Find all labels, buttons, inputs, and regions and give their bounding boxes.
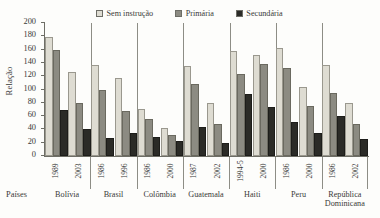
year-tick-label: 1996 (121, 163, 129, 178)
bar (353, 124, 361, 156)
y-axis-tick-label: 20 (28, 138, 36, 146)
year-tick-label: 1986 (98, 163, 106, 178)
year-bar-group (45, 23, 68, 156)
bar (161, 128, 169, 156)
legend-label: Sem instrução (107, 10, 154, 18)
bar (291, 122, 299, 156)
bar (176, 141, 184, 156)
y-axis-tick-label: 80 (28, 98, 36, 106)
bar (214, 124, 222, 156)
year-bar-group (345, 23, 368, 156)
bar (260, 64, 268, 156)
year-tick-cell: 2000 (160, 157, 183, 189)
year-tick-label: 2002 (353, 163, 361, 178)
year-tick-label: 1989 (52, 163, 60, 178)
bar (106, 138, 114, 156)
country-year-tick-group: 19862002 (322, 157, 368, 189)
y-axis-tick-label: 180 (23, 31, 36, 39)
bar (130, 133, 138, 156)
year-tick-label: 2002 (214, 163, 222, 178)
country-year-tick-group: 19862000 (275, 157, 321, 189)
bar (45, 37, 53, 156)
year-tick-cell: 1986 (90, 157, 113, 189)
bar (115, 78, 123, 156)
bar (191, 84, 199, 156)
year-tick-label: 1986 (283, 163, 291, 178)
year-tick-label: 1986 (329, 163, 337, 178)
y-axis-tick-label: 140 (23, 58, 36, 66)
y-axis-tick-label: 200 (23, 18, 36, 26)
bar-groups (45, 23, 368, 156)
year-bar-group (230, 23, 253, 156)
year-tick-cell: 1986 (275, 157, 298, 189)
bar (245, 94, 253, 157)
bar (322, 65, 330, 156)
bar (122, 111, 130, 156)
country-year-tick-group: 19872002 (183, 157, 229, 189)
country-year-tick-group: 19861996 (90, 157, 136, 189)
bar (237, 74, 245, 156)
year-tick-label: 1986 (144, 163, 152, 178)
bar (83, 129, 91, 156)
year-bar-group (183, 23, 206, 156)
country-group (183, 23, 229, 156)
bar (184, 66, 192, 156)
bar (345, 103, 353, 156)
year-bar-group (207, 23, 230, 156)
country-group (322, 23, 368, 156)
country-label-line2: Dominicana (325, 199, 365, 208)
bar (91, 65, 99, 156)
year-bar-group (276, 23, 299, 156)
year-tick-cell: 2003 (67, 157, 90, 189)
year-tick-cell: 2000 (252, 157, 275, 189)
legend-item: Sem instrução (96, 10, 153, 18)
y-axis-title: Relação (4, 51, 14, 111)
bar (307, 106, 315, 156)
year-tick-label: 2003 (75, 163, 83, 178)
y-axis-tick-label: 100 (23, 84, 36, 92)
y-axis-tick-label: 120 (23, 71, 36, 79)
country-group (137, 23, 183, 156)
bar (76, 103, 84, 156)
bar (60, 110, 68, 156)
year-bar-group (322, 23, 345, 156)
x-axis-title: Países (6, 190, 27, 199)
bar (283, 68, 291, 156)
country-year-tick-group: 19862000 (137, 157, 183, 189)
bar (230, 51, 238, 156)
chart-figure: Sem instruçãoPrimáriaSecundária Relação … (0, 0, 380, 218)
bar (99, 90, 107, 157)
year-tick-labels: 198920031986199619862000198720021994-520… (44, 157, 368, 189)
bar (337, 116, 345, 156)
country-labels: BolíviaBrasilColômbiaGuatemalaHaitiPeruR… (44, 189, 368, 217)
bar (276, 48, 284, 156)
country-group (91, 23, 137, 156)
country-group (230, 23, 276, 156)
legend-item: Primária (175, 10, 214, 18)
year-tick-label: 1994-5 (237, 160, 245, 182)
year-tick-cell: 2002 (345, 157, 368, 189)
legend-swatch-icon (96, 10, 103, 17)
y-axis-tick-label: 0 (32, 151, 36, 159)
bar (68, 72, 76, 156)
country-label: Brasil (90, 189, 136, 217)
year-tick-cell: 2000 (299, 157, 322, 189)
year-bar-group (114, 23, 137, 156)
country-group (45, 23, 91, 156)
legend-swatch-icon (175, 10, 182, 17)
y-axis-tick-label: 160 (23, 44, 36, 52)
bar (207, 103, 215, 156)
year-bar-group (299, 23, 322, 156)
year-tick-cell: 1987 (183, 157, 206, 189)
bar (138, 109, 146, 156)
plot-area: 020406080100120140160180200 (44, 23, 368, 156)
bar (153, 137, 161, 156)
year-tick-cell: 1989 (44, 157, 67, 189)
year-bar-group (160, 23, 183, 156)
country-label: Guatemala (183, 189, 229, 217)
year-bar-group (253, 23, 276, 156)
bar (314, 133, 322, 156)
year-bar-group (68, 23, 91, 156)
y-axis-tick-label: 60 (28, 111, 36, 119)
bar (253, 55, 261, 156)
